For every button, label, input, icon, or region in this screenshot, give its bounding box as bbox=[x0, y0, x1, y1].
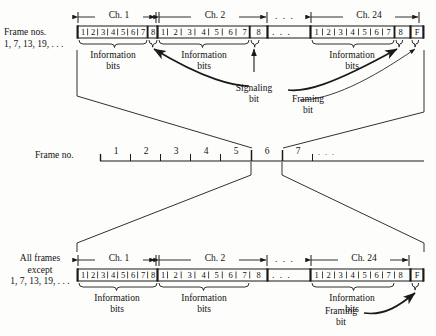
signaling-bit-callout-line1: Signaling bbox=[229, 83, 279, 94]
top-ch2-bit-4: 4 bbox=[198, 28, 209, 37]
bottom-ch24-bit-8: 8 bbox=[395, 271, 406, 280]
top-ch24-bit-7: 7 bbox=[383, 28, 394, 37]
bottom-ch1-info-line1: Information bbox=[82, 293, 152, 304]
bottom-info-braces bbox=[79, 283, 419, 291]
bottom-ch1-bit-6: 6 bbox=[128, 271, 138, 280]
top-ch2-bit-3: 3 bbox=[184, 28, 195, 37]
top-ch2-bit-7: 7 bbox=[239, 28, 250, 37]
top-row-side-label-line1: Frame nos. bbox=[4, 27, 63, 39]
top-ch2-bit-8: 8 bbox=[253, 28, 264, 37]
bottom-ch1-bit-4: 4 bbox=[108, 271, 118, 280]
bottom-channel-label-24: Ch. 24 bbox=[338, 253, 390, 263]
bottom-ch1-bit-1: 1 bbox=[78, 271, 88, 280]
bottom-channel-label-1: Ch. 1 bbox=[95, 253, 143, 263]
top-row-side-label: Frame nos. 1, 7, 13, 19, . . . bbox=[4, 27, 63, 50]
bottom-ch1-bit-5: 5 bbox=[118, 271, 128, 280]
framing-bit-callout-top-line1: Framing bbox=[285, 94, 331, 105]
bottom-ch2-bit-4: 4 bbox=[198, 271, 209, 280]
bottom-ch1-bit-8: 8 bbox=[148, 271, 158, 280]
top-bitstrip-ellipsis: . . . bbox=[272, 27, 291, 37]
bottom-row-side-label-line3: 1, 7, 13, 19, . . . bbox=[4, 276, 76, 288]
framing-bit-callout-top: Framing bit bbox=[285, 94, 331, 115]
top-ch24-bit-8: 8 bbox=[395, 28, 406, 37]
top-ch24-bit-2: 2 bbox=[323, 28, 334, 37]
top-channel-label-1: Ch. 1 bbox=[95, 10, 143, 20]
top-ch24-bit-4: 4 bbox=[347, 28, 358, 37]
framing-bit-callout-bottom: Framing bit bbox=[318, 306, 364, 327]
bottom-expansion-connectors bbox=[77, 162, 424, 252]
top-ch1-info-line2: bits bbox=[78, 61, 148, 72]
bottom-ch1-info-label: Information bits bbox=[82, 293, 152, 314]
top-info-braces bbox=[79, 40, 419, 48]
signaling-bit-callout: Signaling bit bbox=[229, 83, 279, 104]
top-ch24-bit-6: 6 bbox=[371, 28, 382, 37]
bottom-ch1-bit-2: 2 bbox=[88, 271, 98, 280]
diagram-canvas: Frame nos. 1, 7, 13, 19, . . . Ch. 1 Ch.… bbox=[0, 0, 436, 336]
bottom-ch24-bit-2: 2 bbox=[323, 271, 334, 280]
top-ch24-info-line2: bits bbox=[316, 61, 388, 72]
top-ch2-info-line1: Information bbox=[168, 50, 240, 61]
bottom-channel-ellipsis: . . . bbox=[275, 254, 294, 264]
top-row-side-label-line2: 1, 7, 13, 19, . . . bbox=[4, 39, 63, 51]
top-ch1-info-line1: Information bbox=[78, 50, 148, 61]
top-ch1-info-label: Information bits bbox=[78, 50, 148, 71]
bottom-row-side-label: All frames except 1, 7, 13, 19, . . . bbox=[4, 253, 76, 288]
top-ch2-bit-6: 6 bbox=[225, 28, 236, 37]
bottom-ch2-info-label: Information bits bbox=[168, 293, 240, 314]
top-ch1-bit-7: 7 bbox=[138, 28, 148, 37]
top-ch1-bit-6: 6 bbox=[128, 28, 138, 37]
frame-tick-5: 5 bbox=[221, 146, 251, 156]
top-ch1-bit-8: 8 bbox=[148, 28, 158, 37]
bottom-ch24-info-line1: Information bbox=[316, 293, 388, 304]
bottom-ch2-bit-2: 2 bbox=[170, 271, 181, 280]
bottom-ch24-bit-5: 5 bbox=[359, 271, 370, 280]
top-ch2-info-label: Information bits bbox=[168, 50, 240, 71]
bottom-ch24-bit-7: 7 bbox=[383, 271, 394, 280]
top-ch1-bit-1: 1 bbox=[78, 28, 88, 37]
bottom-ch1-info-line2: bits bbox=[82, 304, 152, 315]
frame-tick-6: 6 bbox=[252, 146, 282, 156]
top-ch1-bit-5: 5 bbox=[118, 28, 128, 37]
bottom-ch2-bit-6: 6 bbox=[225, 271, 236, 280]
bottom-channel-label-2: Ch. 2 bbox=[191, 253, 239, 263]
bottom-ch1-bit-3: 3 bbox=[98, 271, 108, 280]
bottom-ch2-bit-8: 8 bbox=[253, 271, 264, 280]
frame-tick-4: 4 bbox=[191, 146, 221, 156]
top-ch2-bit-2: 2 bbox=[170, 28, 181, 37]
frame-tick-7: 7 bbox=[283, 146, 313, 156]
top-ch2-bit-5: 5 bbox=[211, 28, 222, 37]
signaling-bit-callout-line2: bit bbox=[229, 94, 279, 105]
bottom-ch2-bit-7: 7 bbox=[239, 271, 250, 280]
top-channel-label-24: Ch. 24 bbox=[343, 10, 395, 20]
bottom-ch2-info-line1: Information bbox=[168, 293, 240, 304]
bottom-ch24-bit-4: 4 bbox=[347, 271, 358, 280]
bottom-ch24-bit-1: 1 bbox=[311, 271, 322, 280]
bottom-bitstrip-ellipsis: . . . bbox=[272, 270, 291, 280]
top-ch1-bit-3: 3 bbox=[98, 28, 108, 37]
bottom-ch2-bit-3: 3 bbox=[184, 271, 195, 280]
frame-timeline-label: Frame no. bbox=[35, 150, 74, 161]
framing-bit-callout-bottom-line2: bit bbox=[318, 317, 364, 328]
frame-tick-3: 3 bbox=[161, 146, 191, 156]
bottom-row-side-label-line2: except bbox=[4, 265, 76, 277]
framing-bit-callout-bottom-line1: Framing bbox=[318, 306, 364, 317]
bottom-ch24-bit-3: 3 bbox=[335, 271, 346, 280]
bottom-ch2-bit-1: 1 bbox=[158, 271, 168, 280]
top-ch2-bit-1: 1 bbox=[158, 28, 168, 37]
top-ch24-bit-5: 5 bbox=[359, 28, 370, 37]
bottom-ch2-info-line2: bits bbox=[168, 304, 240, 315]
top-ch24-bit-1: 1 bbox=[311, 28, 322, 37]
top-channel-ellipsis: . . . bbox=[275, 11, 294, 21]
top-framing-cell: F bbox=[411, 28, 423, 37]
bottom-framing-cell: F bbox=[411, 271, 423, 280]
bottom-ch2-bit-5: 5 bbox=[211, 271, 222, 280]
bottom-ch24-bit-6: 6 bbox=[371, 271, 382, 280]
top-ch24-info-line1: Information bbox=[316, 50, 388, 61]
top-ch1-bit-4: 4 bbox=[108, 28, 118, 37]
bottom-row-side-label-line1: All frames bbox=[4, 253, 76, 265]
frame-timeline-ellipsis: . . . bbox=[318, 148, 336, 157]
top-ch24-info-label: Information bits bbox=[316, 50, 388, 71]
top-ch2-info-line2: bits bbox=[168, 61, 240, 72]
top-ch1-bit-2: 2 bbox=[88, 28, 98, 37]
top-channel-label-2: Ch. 2 bbox=[191, 10, 239, 20]
